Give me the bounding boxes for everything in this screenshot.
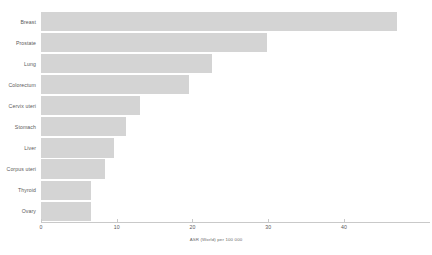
bar <box>41 159 105 178</box>
y-axis-tick-label: Breast <box>20 19 38 25</box>
bar <box>41 33 267 52</box>
bar <box>41 181 91 200</box>
y-axis-tick: Ovary <box>0 201 38 222</box>
bar-row <box>41 116 425 137</box>
y-axis-tick: Corpus uteri <box>0 159 38 180</box>
bar-row <box>41 32 425 53</box>
y-axis-tick: Thyroid <box>0 180 38 201</box>
y-axis-tick: Cervix uteri <box>0 95 38 116</box>
x-axis-tick <box>344 219 345 222</box>
y-axis-tick-label: Ovary <box>22 208 38 214</box>
x-axis-title: ASR (World) per 100 000 <box>0 237 432 242</box>
y-axis-tick: Prostate <box>0 32 38 53</box>
y-axis-tick: Breast <box>0 11 38 32</box>
y-axis-tick: Liver <box>0 138 38 159</box>
y-axis-tick-label: Cervix uteri <box>9 103 38 109</box>
y-axis-tick-label: Liver <box>24 145 38 151</box>
x-axis-tick-label: 40 <box>341 224 347 230</box>
bar <box>41 54 212 73</box>
bar-chart: Breast Prostate Lung Colorectum Cervix u… <box>0 0 432 255</box>
x-axis-tick <box>41 219 42 222</box>
bar-row <box>41 201 425 222</box>
x-axis-tick-label: 20 <box>190 224 196 230</box>
x-axis-tick-label: 30 <box>265 224 271 230</box>
bar-row <box>41 95 425 116</box>
x-axis-tick <box>268 219 269 222</box>
y-axis-tick-label: Corpus uteri <box>7 166 38 172</box>
x-axis-line <box>41 222 430 223</box>
y-axis-tick: Stomach <box>0 116 38 137</box>
plot-area <box>41 11 425 222</box>
bar-row <box>41 159 425 180</box>
y-axis-tick: Colorectum <box>0 74 38 95</box>
y-axis-category-labels: Breast Prostate Lung Colorectum Cervix u… <box>0 11 38 222</box>
x-axis-tick <box>117 219 118 222</box>
bar <box>41 138 114 157</box>
y-axis-tick-label: Colorectum <box>8 82 38 88</box>
x-axis-tick-label: 0 <box>40 224 43 230</box>
bar-row <box>41 11 425 32</box>
bar <box>41 12 397 31</box>
bar <box>41 117 126 136</box>
x-axis-tick-label: 10 <box>114 224 120 230</box>
y-axis-tick: Lung <box>0 53 38 74</box>
y-axis-tick-label: Stomach <box>15 124 38 130</box>
bar-row <box>41 74 425 95</box>
bar-row <box>41 53 425 74</box>
y-axis-tick-label: Lung <box>24 61 38 67</box>
bar-row <box>41 138 425 159</box>
x-axis-tick <box>192 219 193 222</box>
bar <box>41 96 140 115</box>
bar-row <box>41 180 425 201</box>
y-axis-tick-label: Thyroid <box>18 187 38 193</box>
bar <box>41 202 91 221</box>
y-axis-tick-label: Prostate <box>16 40 38 46</box>
bar <box>41 75 189 94</box>
